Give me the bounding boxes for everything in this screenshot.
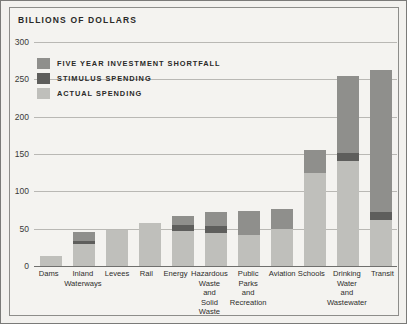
bar[interactable] [370,70,392,266]
bar-segment [337,153,359,161]
chart-legend: FIVE YEAR INVESTMENT SHORTFALLSTIMULUS S… [37,58,220,103]
bar-segment [172,231,194,266]
bar-segment [139,223,161,266]
bar-segment [172,216,194,225]
bar-segment [205,233,227,266]
y-axis-tick-label: 150 [15,149,29,159]
y-axis-tick-label: 50 [20,224,29,234]
bar-segment [370,70,392,211]
legend-item[interactable]: FIVE YEAR INVESTMENT SHORTFALL [37,58,220,69]
x-axis-label: PublicParksandRecreation [229,269,268,317]
bar[interactable] [304,150,326,266]
bar[interactable] [205,212,227,266]
x-axis-label: Energy [161,269,190,317]
bar-slot [265,42,298,266]
bar-segment [271,209,293,228]
x-axis-label: Aviation [268,269,297,317]
bar-slot [364,42,397,266]
chart-title: BILLIONS OF DOLLARS [18,15,137,25]
y-axis-tick-label: 200 [15,112,29,122]
bar-segment [238,211,260,236]
legend-swatch [37,58,50,69]
bar-segment [205,212,227,225]
bar-slot [232,42,265,266]
x-axis-label: Transit [368,269,397,317]
x-axis-labels: DamsInlandWaterwaysLeveesRailEnergyHazar… [34,269,397,317]
bar-segment [40,256,62,266]
x-axis-label: Rail [132,269,161,317]
bar[interactable] [40,256,62,266]
legend-swatch [37,88,50,99]
x-axis-label: HazardousWasteandSolidWaste [190,269,229,317]
bar-segment [370,220,392,266]
x-axis-label: Schools [297,269,326,317]
x-axis-label: DrinkingWaterandWastewater [326,269,368,317]
y-axis-tick-label: 250 [15,74,29,84]
x-axis-label: InlandWaterways [63,269,102,317]
bar-slot [331,42,364,266]
bar-segment [304,150,326,172]
legend-label: ACTUAL SPENDING [57,89,142,98]
x-axis-label: Levees [102,269,131,317]
y-axis-tick-label: 300 [15,37,29,47]
legend-swatch [37,73,50,84]
y-axis-tick-label: 0 [24,261,29,271]
bar[interactable] [172,216,194,266]
x-axis-label: Dams [34,269,63,317]
legend-label: FIVE YEAR INVESTMENT SHORTFALL [57,59,220,68]
y-axis-tick-label: 100 [15,186,29,196]
bar-segment [337,161,359,266]
bar-segment [337,76,359,154]
bar-segment [304,173,326,266]
bar-segment [73,232,95,240]
bar-segment [238,235,260,266]
legend-item[interactable]: STIMULUS SPENDING [37,73,220,84]
bar[interactable] [106,230,128,266]
bar-segment [106,230,128,266]
bar-segment [271,229,293,266]
chart-card: BILLIONS OF DOLLARS 050100150200250300 D… [0,0,407,324]
legend-item[interactable]: ACTUAL SPENDING [37,88,220,99]
bar-segment [73,244,95,266]
bar[interactable] [271,209,293,266]
bar[interactable] [238,211,260,266]
x-axis-line [34,266,397,267]
bar-slot [298,42,331,266]
bar-segment [370,212,392,220]
bar[interactable] [337,76,359,266]
bar[interactable] [73,232,95,266]
bar-segment [205,226,227,233]
legend-label: STIMULUS SPENDING [57,74,152,83]
bar[interactable] [139,223,161,266]
